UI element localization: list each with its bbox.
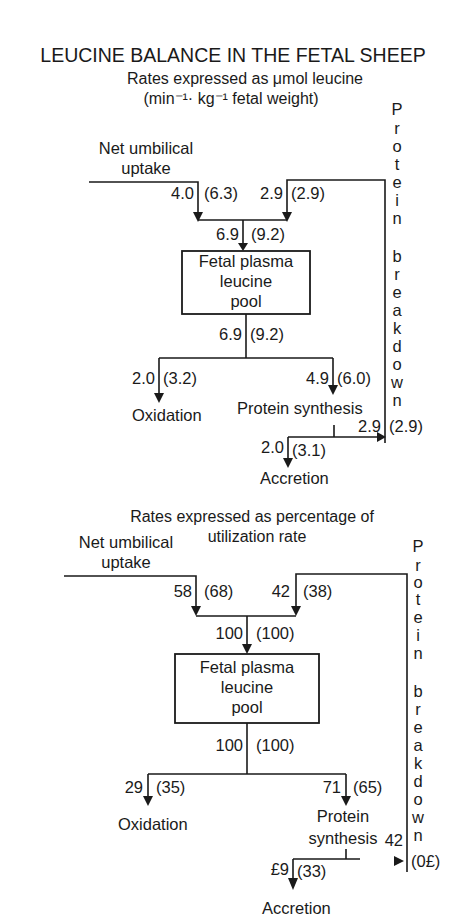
panel2-pool-out-value-alt: (100): [256, 736, 295, 754]
panel2-breakdown-out-value-alt: (0£): [411, 852, 440, 870]
svg-text:n: n: [392, 391, 401, 409]
panel1-synthesis-value-alt: (6.0): [337, 369, 371, 387]
svg-text:t: t: [416, 590, 421, 608]
panel2-pool-out-value: 100: [215, 736, 243, 754]
panel1-breakdown-in-value-alt: (2.9): [291, 184, 325, 202]
svg-text:P: P: [412, 537, 423, 555]
svg-text:o: o: [392, 355, 401, 373]
panel2-pool-label-3: pool: [231, 698, 262, 716]
panel1-uptake-value: 4.0: [171, 184, 194, 202]
panel1-uptake-label-2: uptake: [121, 159, 171, 177]
svg-text:k: k: [414, 754, 423, 772]
panel1-caption-line2: (min⁻¹· kg⁻¹ fetal weight): [143, 90, 318, 107]
arrowhead-icon: [341, 796, 351, 806]
panel1-breakdown-out-value-alt: (2.9): [389, 417, 423, 435]
panel2-pool-in-value: 100: [215, 624, 243, 642]
panel2-caption-line2: utilization rate: [208, 528, 307, 545]
panel1-breakdown-in-value: 2.9: [260, 184, 283, 202]
panel2-uptake-value-alt: (68): [204, 582, 233, 600]
panel2-oxidation-value-alt: (35): [156, 778, 185, 796]
panel2-pool-in-value-alt: (100): [256, 624, 295, 642]
svg-text:k: k: [393, 319, 402, 337]
arrowhead-icon: [191, 606, 201, 616]
panel1-oxidation-value: 2.0: [132, 369, 155, 387]
svg-text:a: a: [413, 736, 423, 754]
panel2-pool-label-1: Fetal plasma: [200, 658, 295, 676]
svg-text:d: d: [413, 772, 422, 790]
svg-text:d: d: [392, 337, 401, 355]
svg-text:n: n: [413, 826, 422, 844]
panel1-synthesis-label: Protein synthesis: [237, 399, 363, 417]
panel2-synthesis-value: 71: [323, 778, 341, 796]
svg-text:i: i: [416, 626, 420, 644]
panel1-breakdown-out-value: 2.9: [358, 417, 381, 435]
arrowhead-icon: [143, 796, 153, 806]
svg-text:i: i: [395, 191, 399, 209]
svg-text:o: o: [413, 790, 422, 808]
svg-text:t: t: [395, 155, 400, 173]
svg-text:w: w: [411, 808, 424, 826]
svg-text:o: o: [413, 573, 422, 591]
panel2-accretion-value-alt: (33): [297, 862, 326, 880]
panel1-oxidation-value-alt: (3.2): [163, 369, 197, 387]
arrowhead-icon: [242, 644, 252, 654]
svg-text:e: e: [413, 718, 422, 736]
svg-text:r: r: [394, 119, 400, 137]
svg-text:e: e: [392, 173, 401, 191]
svg-text:r: r: [415, 556, 421, 574]
panel2-caption-line1: Rates expressed as percentage of: [130, 508, 374, 525]
panel2-synthesis-label-1: Protein: [317, 807, 369, 825]
arrowhead-icon: [291, 606, 301, 616]
panel1-synthesis-value: 4.9: [306, 369, 329, 387]
panel2-oxidation-value: 29: [125, 778, 143, 796]
svg-text:a: a: [392, 301, 402, 319]
panel1-accretion-label: Accretion: [260, 469, 329, 487]
panel2-side-label: P r o t e i n b r e a k d o w n: [411, 537, 424, 844]
svg-text:b: b: [413, 682, 422, 700]
svg-text:n: n: [392, 209, 401, 227]
panel2-breakdown-out-value: 42: [385, 831, 403, 849]
panel2-uptake-value: 58: [174, 582, 192, 600]
panel1-side-label: P r o t e i n b r e a k d o w n: [390, 100, 403, 409]
svg-text:r: r: [394, 265, 400, 283]
svg-text:r: r: [415, 700, 421, 718]
panel2-uptake-label-2: uptake: [101, 553, 151, 571]
panel2-breakdown-in-value-alt: (38): [303, 582, 332, 600]
panel1-caption-line1: Rates expressed as μmol leucine: [127, 70, 363, 87]
panel2-synthesis-value-alt: (65): [353, 778, 382, 796]
panel1-pool-label-2: leucine: [220, 272, 272, 290]
panel1-pool-in-value: 6.9: [216, 225, 239, 243]
panel1-accretion-value-alt: (3.1): [292, 441, 326, 459]
panel2-accretion-value: £9: [271, 860, 289, 878]
panel1-pool-out-value-alt: (9.2): [250, 325, 284, 343]
arrowhead-icon: [394, 856, 404, 866]
panel-absolute-rates: Rates expressed as μmol leucine (min⁻¹· …: [89, 70, 423, 487]
svg-text:e: e: [413, 608, 422, 626]
panel1-pool-label-3: pool: [230, 292, 261, 310]
leucine-balance-diagram: LEUCINE BALANCE IN THE FETAL SHEEP Rates…: [0, 0, 467, 924]
panel2-accretion-label: Accretion: [262, 899, 331, 917]
svg-text:w: w: [390, 373, 403, 391]
svg-text:b: b: [392, 247, 401, 265]
panel2-breakdown-in-value: 42: [272, 582, 290, 600]
svg-text:n: n: [413, 644, 422, 662]
panel1-oxidation-label: Oxidation: [132, 406, 202, 424]
panel1-uptake-value-alt: (6.3): [204, 184, 238, 202]
arrowhead-icon: [283, 458, 293, 468]
panel1-pool-label-1: Fetal plasma: [199, 252, 294, 270]
panel2-synthesis-label-2: synthesis: [309, 829, 378, 847]
panel-percentage-rates: Rates expressed as percentage of utiliza…: [64, 508, 440, 917]
svg-text:o: o: [392, 137, 401, 155]
panel1-accretion-value: 2.0: [261, 438, 284, 456]
svg-text:P: P: [391, 100, 402, 118]
panel2-oxidation-label: Oxidation: [118, 815, 188, 833]
arrowhead-icon: [154, 393, 164, 403]
panel2-uptake-label-1: Net umbilical: [79, 533, 173, 551]
panel1-uptake-label-1: Net umbilical: [99, 139, 193, 157]
panel1-pool-in-value-alt: (9.2): [251, 225, 285, 243]
diagram-title: LEUCINE BALANCE IN THE FETAL SHEEP: [40, 44, 425, 66]
svg-text:e: e: [392, 283, 401, 301]
panel2-pool-label-2: leucine: [221, 678, 273, 696]
panel1-pool-out-value: 6.9: [219, 325, 242, 343]
arrowhead-icon: [238, 243, 248, 251]
